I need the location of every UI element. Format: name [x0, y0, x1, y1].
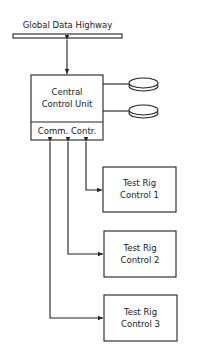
highway-label-text: Global Data Highway	[13, 19, 122, 31]
test-rig-3-line2: Control 3	[104, 318, 177, 330]
test-rig-3-link	[50, 142, 103, 318]
global-data-highway-bar	[13, 34, 122, 38]
central-line1: Central	[31, 86, 103, 98]
disk-2-icon	[129, 105, 158, 118]
test-rig-3-line1: Test Rig	[104, 306, 177, 318]
test-rig-1-label: Test Rig Control 1	[103, 177, 176, 201]
test-rig-2-label: Test Rig Control 2	[104, 242, 176, 266]
central-control-unit-label: Central Control Unit	[31, 86, 103, 110]
test-rig-3-label: Test Rig Control 3	[104, 306, 177, 330]
test-rig-1-line2: Control 1	[103, 189, 176, 201]
test-rig-1-link	[86, 142, 102, 190]
highway-label: Global Data Highway	[13, 19, 122, 31]
test-rig-2-line2: Control 2	[104, 254, 176, 266]
central-line2: Control Unit	[31, 98, 103, 110]
comm-contr-label: Comm. Contr.	[31, 125, 103, 137]
test-rig-2-line1: Test Rig	[104, 242, 176, 254]
disk-1-icon	[129, 78, 158, 91]
test-rig-1-line1: Test Rig	[103, 177, 176, 189]
comm-contr-text: Comm. Contr.	[31, 125, 103, 137]
